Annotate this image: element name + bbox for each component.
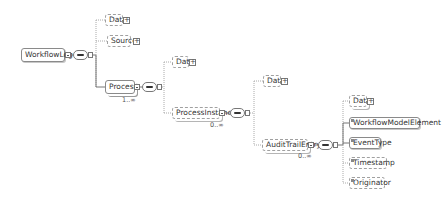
element-label: WorkflowModelElement — [353, 118, 441, 128]
collapse-icon[interactable] — [157, 84, 162, 90]
collapse-icon[interactable] — [333, 142, 338, 148]
element-processinstance[interactable]: ProcessInstance — [172, 107, 220, 119]
element-label: Originator — [353, 178, 391, 188]
collapse-icon[interactable] — [219, 110, 225, 116]
expand-plus-icon[interactable]: + — [123, 17, 130, 24]
element-data[interactable]: Data — [349, 95, 367, 107]
element-timestamp[interactable]: Timestamp — [349, 157, 387, 169]
collapse-icon[interactable] — [88, 52, 93, 58]
collapse-icon[interactable] — [65, 52, 71, 58]
element-label: EventType — [353, 138, 392, 148]
cardinality-label: 0..∞ — [210, 121, 224, 129]
expand-plus-icon[interactable]: + — [281, 78, 288, 85]
sequence-compositor-icon[interactable] — [318, 140, 333, 150]
expand-plus-icon[interactable]: + — [367, 98, 374, 105]
element-data[interactable]: Data — [263, 75, 281, 87]
expand-plus-icon[interactable]: + — [189, 59, 196, 66]
simple-type-icon — [351, 159, 354, 162]
element-data[interactable]: Data — [172, 56, 189, 68]
collapse-icon[interactable] — [245, 110, 250, 116]
collapse-icon[interactable] — [134, 84, 140, 90]
element-workflowmodelelement[interactable]: WorkflowModelElement — [349, 117, 420, 129]
simple-type-icon — [351, 139, 354, 142]
cardinality-label: 1..∞ — [122, 96, 136, 104]
simple-type-icon — [351, 119, 354, 122]
collapse-icon[interactable] — [308, 142, 314, 148]
expand-plus-icon[interactable]: + — [133, 38, 140, 45]
element-label: Timestamp — [353, 158, 395, 168]
sequence-compositor-icon[interactable] — [142, 82, 157, 92]
sequence-compositor-icon[interactable] — [230, 108, 245, 118]
element-audittrailentry[interactable]: AuditTrailEntry — [262, 139, 308, 151]
element-process[interactable]: Process — [105, 80, 135, 94]
element-label: ProcessInstance — [176, 108, 236, 118]
element-originator[interactable]: Originator — [349, 177, 385, 189]
element-data[interactable]: Data — [105, 14, 123, 26]
element-source[interactable]: Source — [107, 35, 131, 47]
element-workflowlog[interactable]: WorkflowLog — [21, 48, 65, 62]
connector-lines — [0, 0, 443, 203]
element-eventtype[interactable]: EventType — [349, 137, 381, 149]
cardinality-label: 0..∞ — [298, 152, 312, 160]
sequence-compositor-icon[interactable] — [73, 50, 88, 60]
simple-type-icon — [351, 179, 354, 182]
